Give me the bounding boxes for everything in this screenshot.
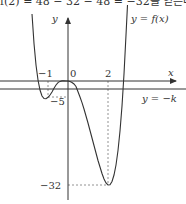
curve-label: y = f(x) [130,13,169,24]
x-axis-label: x [168,67,174,78]
curve-f [32,5,128,185]
tick-label-neg1: −1 [38,68,53,79]
y-axis-label: y [51,13,58,24]
tick-label-0: 0 [70,68,76,79]
function-graph: y x y = f(x) y = −k −1 0 2 −5 −32 [0,0,186,204]
line-label: y = −k [141,93,177,104]
value-label-neg5: −5 [50,96,65,107]
tick-label-2: 2 [105,68,111,79]
value-label-neg32: −32 [40,180,61,191]
